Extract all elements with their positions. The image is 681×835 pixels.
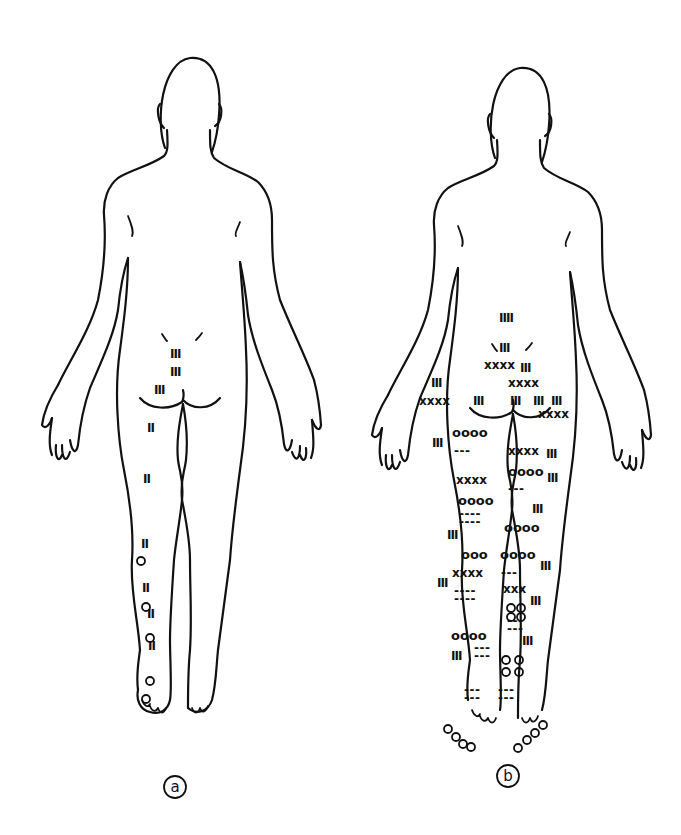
symptom-mark: III xyxy=(170,365,181,379)
circle-mark xyxy=(531,729,539,737)
circle-mark xyxy=(142,695,150,703)
symptom-mark: oooo xyxy=(458,493,494,508)
circle-mark xyxy=(146,677,154,685)
symptom-mark: III xyxy=(522,634,533,648)
symptom-mark: III xyxy=(546,447,557,461)
symptom-mark: --- xyxy=(508,482,524,496)
symptom-mark: II xyxy=(141,537,148,551)
panel-a-circle-markings xyxy=(137,557,154,703)
symptom-mark: oooo xyxy=(504,520,540,535)
symptom-mark: --- xyxy=(474,649,490,663)
symptom-mark: --- xyxy=(507,622,523,636)
symptom-mark: ---- xyxy=(454,592,476,606)
symptom-mark: --- xyxy=(454,444,470,458)
panel-b-circle-markings xyxy=(444,604,547,752)
circle-mark xyxy=(452,733,460,741)
symptom-mark: III xyxy=(547,471,558,485)
symptom-mark: III xyxy=(520,361,531,375)
symptom-mark: III xyxy=(154,383,165,397)
circle-mark xyxy=(502,668,510,676)
symptom-mark: xxxx xyxy=(508,444,539,458)
symptom-mark: xxxx xyxy=(419,394,450,408)
symptom-mark: III xyxy=(437,576,448,590)
symptom-mark: oooo xyxy=(508,464,544,479)
symptom-mark: II xyxy=(142,581,149,595)
symptom-mark: III xyxy=(431,376,442,390)
symptom-mark: ---- xyxy=(459,515,481,529)
panel-a-body-outline xyxy=(42,58,321,713)
panel-a-markings: IIIIIIIIIIIIIIIIIIIII xyxy=(141,347,181,653)
body-diagram-figure: IIIIIIIIIIIIIIIIIIIII IIIIIIIxxxxIIIxxxx… xyxy=(0,0,681,835)
svg-text:b: b xyxy=(503,767,513,785)
circle-mark xyxy=(467,743,475,751)
symptom-mark: III xyxy=(530,594,541,608)
symptom-mark: --- xyxy=(464,691,480,705)
symptom-mark: III xyxy=(447,528,458,542)
symptom-mark: --- xyxy=(501,566,517,580)
circle-mark xyxy=(507,604,515,612)
symptom-mark: III xyxy=(532,502,543,516)
circle-mark xyxy=(459,740,467,748)
symptom-mark: xxxx xyxy=(508,376,539,390)
symptom-mark: II xyxy=(147,607,154,621)
symptom-mark: oooo xyxy=(500,547,536,562)
symptom-mark: IIII xyxy=(499,311,513,325)
symptom-mark: III xyxy=(540,559,551,573)
symptom-mark: xxxx xyxy=(456,473,487,487)
symptom-mark: III xyxy=(473,394,484,408)
symptom-mark: --- xyxy=(498,691,514,705)
symptom-mark: II xyxy=(143,472,150,486)
circle-mark xyxy=(137,557,145,565)
symptom-mark: III xyxy=(551,394,562,408)
symptom-mark: xxxx xyxy=(538,407,569,421)
symptom-mark: xxxx xyxy=(484,358,515,372)
panel-b-markings: IIIIIIIxxxxIIIxxxxIIIxxxxIIIIIIIIIIIIxxx… xyxy=(419,311,569,705)
symptom-mark: oooo xyxy=(452,425,488,440)
circle-mark xyxy=(444,725,452,733)
symptom-mark: III xyxy=(533,394,544,408)
svg-text:a: a xyxy=(170,778,179,796)
symptom-mark: xxx xyxy=(503,582,526,596)
panel-a-label: a xyxy=(164,776,186,798)
symptom-mark: III xyxy=(510,394,521,408)
symptom-mark: II xyxy=(147,421,154,435)
circle-mark xyxy=(523,736,531,744)
circle-mark xyxy=(514,744,522,752)
symptom-mark: III xyxy=(451,649,462,663)
circle-mark xyxy=(539,721,547,729)
panel-b-label: b xyxy=(497,765,519,787)
symptom-mark: xxxx xyxy=(452,566,483,580)
symptom-mark: ooo xyxy=(461,547,488,562)
symptom-mark: III xyxy=(432,436,443,450)
symptom-mark: III xyxy=(499,341,510,355)
circle-mark xyxy=(502,656,510,664)
symptom-mark: III xyxy=(170,347,181,361)
